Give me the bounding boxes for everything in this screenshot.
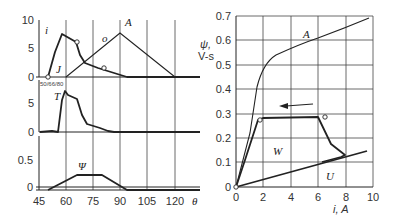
marker-loop-left xyxy=(258,118,262,122)
y-tick-0.5: 0.5 xyxy=(216,59,231,71)
label-j: J xyxy=(56,63,62,75)
label-psi: Ψ xyxy=(78,160,87,172)
top-left-panel: 10 5 0 i A o J 50/66/80 xyxy=(22,14,200,87)
label-o: o xyxy=(102,32,108,44)
label-50-66-80: 50/66/80 xyxy=(40,81,64,87)
x-tick-105: 105 xyxy=(138,195,156,207)
marker-i-start xyxy=(46,75,50,79)
x-label-theta: θ xyxy=(192,195,198,207)
y-tick-0.2: 0.2 xyxy=(216,132,231,144)
y-axis-label-1: ψ, xyxy=(200,38,211,50)
y-tick-5: 5 xyxy=(28,42,34,54)
y-tick-0.7: 0.7 xyxy=(216,10,231,22)
a-curve xyxy=(66,33,175,77)
x-tick-75: 75 xyxy=(87,195,99,207)
figure: 10 5 0 i A o J 50/66/80 5 0 T 0.5 0 Ψ 45… xyxy=(0,0,395,222)
label-a: A xyxy=(302,28,310,40)
label-i: i xyxy=(45,24,48,36)
marker-origin xyxy=(234,185,238,189)
x-axis-label: i, A xyxy=(333,203,349,215)
marker-loop-right xyxy=(323,115,327,119)
label-w: W xyxy=(273,145,283,157)
y-tick-5: 5 xyxy=(28,97,34,109)
x-tick-8: 8 xyxy=(343,191,349,203)
y-axis-label-2: V-s xyxy=(198,50,214,62)
x-tick-0: 0 xyxy=(233,191,239,203)
psi-curve xyxy=(48,175,200,190)
y-tick-0.4: 0.4 xyxy=(216,83,231,95)
x-tick-60: 60 xyxy=(60,195,72,207)
x-tick-10: 10 xyxy=(367,191,379,203)
x-tick-120: 120 xyxy=(166,195,184,207)
y-tick-0.5: 0.5 xyxy=(18,154,33,166)
x-tick-6: 6 xyxy=(315,191,321,203)
direction-arrow xyxy=(286,104,313,106)
arrow-head-icon xyxy=(279,103,288,109)
y-tick-0: 0 xyxy=(225,181,231,193)
right-gridlines xyxy=(236,16,373,187)
x-tick-45: 45 xyxy=(33,195,45,207)
marker-i-tail xyxy=(102,66,106,70)
y-tick-0: 0 xyxy=(27,181,33,193)
y-tick-0: 0 xyxy=(28,126,34,138)
marker-i-mid xyxy=(75,40,79,44)
x-tick-4: 4 xyxy=(288,191,294,203)
label-u: U xyxy=(326,170,335,182)
right-panel: 0 0.1 0.2 0.3 0.4 0.5 0.6 0.7 0 2 4 6 8 … xyxy=(198,10,379,215)
x-tick-2: 2 xyxy=(260,191,266,203)
bottom-left-panel: 0.5 0 Ψ 45 60 75 90 105 120 θ xyxy=(18,136,200,207)
y-tick-0: 0 xyxy=(28,71,34,83)
y-tick-0.3: 0.3 xyxy=(216,108,231,120)
y-tick-0.6: 0.6 xyxy=(216,34,231,46)
label-t: T xyxy=(54,90,61,102)
label-a: A xyxy=(124,16,132,28)
y-tick-10: 10 xyxy=(22,14,34,26)
middle-left-panel: 5 0 T xyxy=(28,80,200,138)
x-tick-90: 90 xyxy=(114,195,126,207)
y-tick-0.1: 0.1 xyxy=(216,156,231,168)
u-line xyxy=(236,151,367,187)
i-curve xyxy=(48,34,200,77)
